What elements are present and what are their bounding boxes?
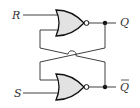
output-label-q-bar: Q	[120, 80, 129, 94]
nor-gate-bottom	[56, 74, 89, 100]
inverter-bubble-top	[84, 21, 89, 26]
input-label-s: S	[14, 87, 22, 100]
svg-text:Q: Q	[120, 81, 129, 94]
output-label-q: Q	[120, 16, 129, 29]
sr-latch-diagram: R S Q Q	[0, 0, 140, 108]
nor-gate-top	[56, 10, 89, 36]
wire-feedback-top-input	[40, 30, 58, 48]
inverter-bubble-bottom	[84, 85, 89, 90]
wire-feedback-bottom-input	[40, 62, 58, 80]
input-label-r: R	[11, 9, 20, 22]
